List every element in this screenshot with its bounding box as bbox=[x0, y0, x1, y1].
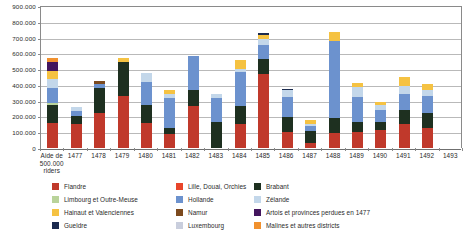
bar-segment[interactable] bbox=[399, 77, 410, 86]
bar-segment[interactable] bbox=[47, 105, 58, 123]
bar-stack[interactable] bbox=[422, 84, 433, 148]
bar-segment[interactable] bbox=[47, 79, 58, 88]
legend-item[interactable]: Zélande bbox=[254, 193, 428, 206]
bar-segment[interactable] bbox=[352, 97, 363, 122]
bar-segment[interactable] bbox=[211, 98, 222, 122]
bar-segment[interactable] bbox=[94, 113, 105, 149]
bar-segment[interactable] bbox=[47, 58, 58, 62]
bar-segment[interactable] bbox=[188, 56, 199, 90]
bar-stack[interactable] bbox=[71, 107, 82, 148]
bar-segment[interactable] bbox=[352, 87, 363, 96]
bar-segment[interactable] bbox=[375, 105, 386, 110]
bar-segment[interactable] bbox=[235, 60, 246, 69]
bar-segment[interactable] bbox=[164, 94, 175, 98]
bar-segment[interactable] bbox=[164, 98, 175, 129]
legend-item[interactable]: Brabant bbox=[254, 180, 428, 193]
bar-segment[interactable] bbox=[118, 96, 129, 148]
bar-segment[interactable] bbox=[258, 35, 269, 39]
bar-segment[interactable] bbox=[258, 45, 269, 59]
bar-segment[interactable] bbox=[352, 83, 363, 87]
bar-segment[interactable] bbox=[94, 81, 105, 84]
bar-segment[interactable] bbox=[352, 132, 363, 148]
bar-segment[interactable] bbox=[282, 117, 293, 132]
bar-segment[interactable] bbox=[71, 116, 82, 123]
legend-item[interactable]: Lille, Douai, Orchies bbox=[176, 180, 248, 193]
bar-segment[interactable] bbox=[235, 69, 246, 72]
bar-segment[interactable] bbox=[329, 41, 340, 118]
bar-segment[interactable] bbox=[329, 118, 340, 133]
bar-segment[interactable] bbox=[141, 73, 152, 82]
bar-segment[interactable] bbox=[399, 86, 410, 95]
legend-item[interactable]: Luxembourg bbox=[176, 219, 248, 232]
bar-segment[interactable] bbox=[235, 106, 246, 124]
bar-segment[interactable] bbox=[235, 124, 246, 148]
bar-stack[interactable] bbox=[235, 60, 246, 148]
bar-segment[interactable] bbox=[164, 90, 175, 93]
bar-segment[interactable] bbox=[422, 90, 433, 96]
legend-item[interactable]: Artois et provinces perdues en 1477 bbox=[254, 206, 428, 219]
bar-segment[interactable] bbox=[141, 105, 152, 122]
legend-item[interactable]: Hollande bbox=[176, 193, 248, 206]
bar-segment[interactable] bbox=[375, 110, 386, 122]
bar-stack[interactable] bbox=[399, 77, 410, 148]
bar-segment[interactable] bbox=[422, 113, 433, 128]
bar-stack[interactable] bbox=[188, 56, 199, 148]
bar-segment[interactable] bbox=[94, 84, 105, 88]
bar-segment[interactable] bbox=[71, 124, 82, 148]
bar-segment[interactable] bbox=[47, 71, 58, 79]
bar-segment[interactable] bbox=[47, 88, 58, 104]
bar-segment[interactable] bbox=[211, 94, 222, 98]
legend-item[interactable]: Gueldre bbox=[52, 219, 170, 232]
bar-segment[interactable] bbox=[329, 133, 340, 148]
bar-segment[interactable] bbox=[352, 122, 363, 132]
bar-stack[interactable] bbox=[305, 120, 316, 148]
bar-segment[interactable] bbox=[282, 89, 293, 91]
bar-segment[interactable] bbox=[305, 126, 316, 132]
legend-item[interactable]: Hainaut et Valenciennes bbox=[52, 206, 170, 219]
bar-stack[interactable] bbox=[94, 81, 105, 148]
bar-segment[interactable] bbox=[329, 32, 340, 41]
bar-segment[interactable] bbox=[47, 103, 58, 104]
bar-stack[interactable] bbox=[47, 58, 58, 148]
bar-segment[interactable] bbox=[399, 94, 410, 110]
bar-segment[interactable] bbox=[118, 62, 129, 96]
bar-segment[interactable] bbox=[305, 131, 316, 143]
legend-item[interactable]: Namur bbox=[176, 206, 248, 219]
bar-segment[interactable] bbox=[118, 58, 129, 62]
bar-segment[interactable] bbox=[71, 107, 82, 111]
bar-segment[interactable] bbox=[47, 123, 58, 148]
bar-stack[interactable] bbox=[141, 73, 152, 148]
bar-segment[interactable] bbox=[258, 33, 269, 35]
bar-segment[interactable] bbox=[375, 102, 386, 105]
bar-segment[interactable] bbox=[141, 82, 152, 106]
bar-segment[interactable] bbox=[235, 72, 246, 106]
bar-segment[interactable] bbox=[282, 132, 293, 148]
bar-stack[interactable] bbox=[352, 83, 363, 148]
bar-segment[interactable] bbox=[188, 90, 199, 107]
bar-stack[interactable] bbox=[329, 32, 340, 148]
bar-stack[interactable] bbox=[258, 33, 269, 148]
bar-stack[interactable] bbox=[375, 102, 386, 148]
bar-segment[interactable] bbox=[258, 59, 269, 74]
bar-segment[interactable] bbox=[422, 128, 433, 148]
bar-segment[interactable] bbox=[94, 88, 105, 112]
bar-segment[interactable] bbox=[375, 122, 386, 130]
legend-item[interactable]: Flandre bbox=[52, 180, 170, 193]
bar-segment[interactable] bbox=[47, 62, 58, 71]
legend-item[interactable]: Malines et autres districts bbox=[254, 219, 428, 232]
bar-segment[interactable] bbox=[282, 90, 293, 96]
bar-segment[interactable] bbox=[164, 134, 175, 148]
bar-segment[interactable] bbox=[258, 39, 269, 45]
bar-segment[interactable] bbox=[422, 96, 433, 113]
bar-segment[interactable] bbox=[375, 130, 386, 148]
bar-segment[interactable] bbox=[71, 111, 82, 117]
bar-stack[interactable] bbox=[118, 58, 129, 148]
bar-segment[interactable] bbox=[282, 97, 293, 118]
bar-stack[interactable] bbox=[211, 94, 222, 148]
bar-segment[interactable] bbox=[258, 74, 269, 148]
bar-segment[interactable] bbox=[399, 124, 410, 148]
bar-stack[interactable] bbox=[164, 90, 175, 148]
bar-segment[interactable] bbox=[305, 120, 316, 124]
bar-segment[interactable] bbox=[305, 124, 316, 126]
bar-segment[interactable] bbox=[422, 84, 433, 90]
